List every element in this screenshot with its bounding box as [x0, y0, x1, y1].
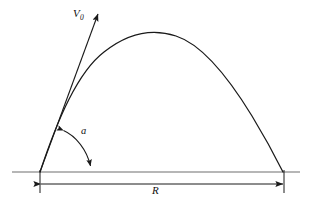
- velocity-subscript: 0: [80, 13, 84, 22]
- velocity-label: V0: [73, 8, 84, 21]
- trajectory-curve: [40, 32, 283, 172]
- range-label: R: [152, 185, 159, 196]
- velocity-symbol: V: [73, 7, 80, 19]
- figure-canvas: [0, 0, 311, 209]
- initial-velocity-vector: [40, 14, 98, 172]
- launch-angle-label: a: [81, 126, 86, 137]
- launch-angle-arc: [64, 131, 91, 167]
- projectile-motion-figure: V0 a R: [0, 0, 311, 209]
